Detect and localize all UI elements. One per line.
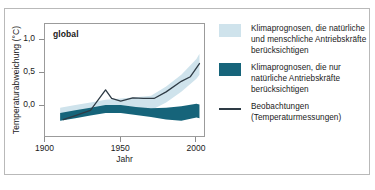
- legend-item: Klimaprognosen, die nur natürliche Antri…: [217, 62, 367, 95]
- legend-item-label: Klimaprognosen, die natürliche und mensc…: [251, 23, 367, 56]
- x-tick: 2000: [195, 137, 196, 142]
- plot-title: global: [53, 29, 79, 39]
- y-tick-label: 1,0: [13, 33, 35, 43]
- figure-panel: Temperaturabweichung (°C) 1,00,50,0 1900…: [4, 8, 370, 175]
- x-tick-label: 1900: [28, 143, 61, 153]
- chart-area: Temperaturabweichung (°C) 1,00,50,0 1900…: [5, 9, 217, 174]
- legend-item: Klimaprognosen, die natürliche und mensc…: [217, 23, 367, 56]
- plot-svg: [45, 24, 204, 136]
- legend-color-swatch: [219, 63, 241, 76]
- y-tick-label: 0,5: [13, 66, 35, 76]
- x-tick-label: 2000: [179, 143, 212, 153]
- legend-line-sample: [219, 108, 241, 110]
- legend-item-label: Beobachtungen (Temperaturmessungen): [251, 101, 367, 123]
- legend-item: Beobachtungen (Temperaturmessungen): [217, 101, 367, 123]
- x-tick: 1900: [44, 137, 45, 142]
- y-tick-label: 0,0: [13, 99, 35, 109]
- x-axis-title: Jahr: [44, 154, 205, 164]
- legend-item-label: Klimaprognosen, die nur natürliche Antri…: [251, 62, 367, 95]
- chart-legend: Klimaprognosen, die natürliche und mensc…: [217, 23, 367, 129]
- legend-color-swatch: [219, 24, 241, 37]
- x-tick-label: 1950: [104, 143, 137, 153]
- x-tick: 1950: [120, 137, 121, 142]
- plot-frame: global: [44, 23, 205, 137]
